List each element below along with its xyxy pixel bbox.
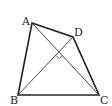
right-angle-marker — [56, 55, 63, 58]
quadrilateral-diagram: A D B C — [0, 0, 112, 106]
diagonal-bd — [18, 37, 73, 95]
label-a: A — [21, 15, 31, 28]
label-d: D — [74, 26, 83, 39]
label-b: B — [10, 94, 18, 106]
quadrilateral-abcd — [18, 23, 99, 95]
label-c: C — [100, 94, 108, 106]
